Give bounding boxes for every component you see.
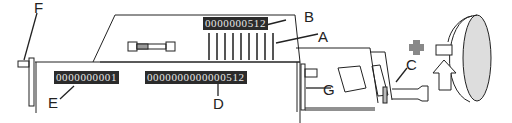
callout-c: C	[406, 57, 417, 72]
counter-b-display: 0000000512	[203, 17, 268, 30]
callout-b: B	[304, 9, 314, 24]
handle	[392, 86, 428, 101]
window	[338, 66, 366, 92]
slot-flange	[301, 64, 305, 110]
counter-e-display: 0000000001	[54, 71, 119, 84]
plus-icon	[409, 40, 424, 55]
rotation-arrow-icon	[433, 15, 491, 102]
left-bracket	[29, 58, 34, 106]
strip-array	[209, 33, 273, 60]
callout-f: F	[34, 0, 43, 15]
top-panel	[93, 15, 300, 62]
callout-a: A	[318, 29, 328, 44]
counter-d-display: 0000000000000512	[145, 71, 247, 84]
left-stub	[18, 61, 29, 67]
callout-e: E	[48, 95, 58, 110]
callout-g: G	[323, 82, 335, 97]
callout-d: D	[213, 96, 224, 111]
